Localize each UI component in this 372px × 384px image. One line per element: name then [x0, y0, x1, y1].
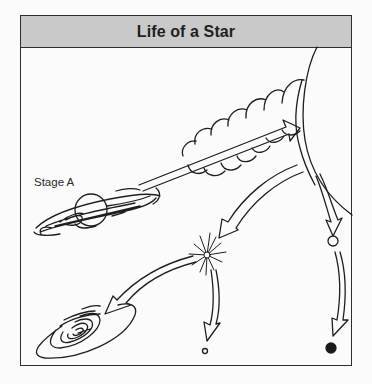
diagram-frame: Life of a Star — [20, 15, 352, 366]
stage-a-label: Stage A — [34, 176, 74, 188]
figure-title: Life of a Star — [137, 23, 235, 41]
title-bar: Life of a Star — [21, 16, 351, 48]
